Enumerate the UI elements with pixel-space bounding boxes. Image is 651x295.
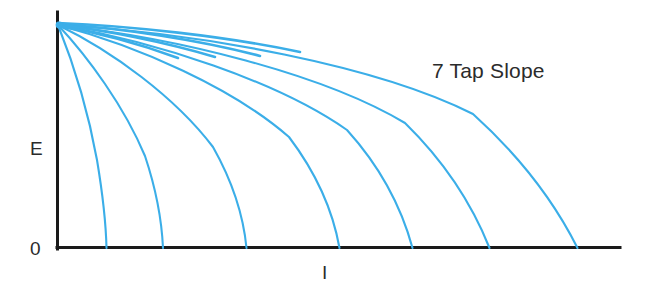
droop-curve-tap-1: [58, 25, 107, 248]
x-axis-label: I: [322, 263, 327, 282]
droop-curve-chart: [0, 0, 651, 295]
axes-group: [57, 12, 620, 249]
fan-convergence-point: [56, 22, 300, 58]
fan-origin-dot: [56, 22, 63, 29]
curve-family: [56, 22, 578, 248]
droop-curve-tap-4: [58, 25, 340, 248]
origin-label: 0: [30, 239, 41, 258]
figure-canvas: E 0 I 7 Tap Slope: [0, 0, 651, 295]
droop-curve-tap-6: [58, 25, 490, 248]
y-axis-label: E: [30, 139, 43, 158]
droop-curve-tap-2: [58, 25, 163, 248]
chart-annotation-label: 7 Tap Slope: [432, 60, 545, 81]
